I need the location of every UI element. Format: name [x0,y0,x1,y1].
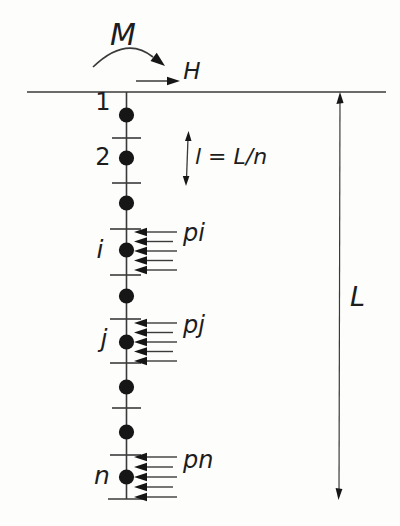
element-dim-arrow-down-icon [183,176,190,186]
load-arrowhead-icon [134,493,147,502]
load-arrowhead-icon [134,319,147,328]
node-i-label: i [97,235,104,264]
load-arrowhead-icon [134,266,147,275]
force-arrowhead-icon [167,77,180,86]
load-arrows-i [134,228,177,275]
pile-diagram: M H 1 2 i j n l = L/n pi pj pn L [0,0,400,526]
element-length-dimension [183,131,192,186]
element-dim-line [187,138,189,179]
load-arrowhead-icon [134,256,147,265]
element-length-label: l = L/n [195,144,267,169]
load-arrowhead-icon [134,347,147,356]
element-dim-arrow-up-icon [185,131,192,141]
node-2-label: 2 [95,143,110,171]
pile-length-dimension [336,92,344,500]
node-dot-3 [119,195,134,210]
node-dots [119,107,134,484]
load-arrowhead-icon [134,237,147,246]
node-j-label: j [98,324,108,353]
node-1-label: 1 [95,88,110,116]
load-i-label: pi [182,219,205,247]
load-arrowhead-icon [134,247,147,256]
load-n-label: pn [182,446,213,474]
node-dot-1 [119,107,134,122]
node-dot-5 [119,288,134,303]
load-arrows-n [134,453,177,502]
load-j-label: pj [182,311,205,339]
node-dot-n [119,469,134,484]
load-arrowhead-icon [134,357,147,366]
moment-arrowhead-icon [151,53,166,66]
pile-length-label: L [350,281,365,312]
load-arrowhead-icon [134,463,147,472]
pile-length-arrow-up-icon [336,92,343,104]
moment-label: M [110,17,136,52]
load-arrowhead-icon [134,338,147,347]
horizontal-force-arrow [136,77,180,86]
load-arrowhead-icon [134,483,147,492]
horizontal-force-label: H [183,58,200,84]
load-arrowhead-icon [134,328,147,337]
pile-length-dim-line [339,95,340,496]
node-dot-j [119,334,134,349]
node-n-label: n [94,461,110,490]
load-arrows-j [134,319,177,366]
pile-length-arrow-down-icon [336,488,343,500]
load-arrowhead-icon [134,473,147,482]
node-dot-i [119,242,134,257]
node-dot-7 [119,379,134,394]
pile-discretization-figure: M H 1 2 i j n l = L/n pi pj pn L [0,0,400,526]
node-dot-8 [119,424,134,439]
node-dot-2 [119,150,134,165]
load-arrowhead-icon [134,453,147,462]
